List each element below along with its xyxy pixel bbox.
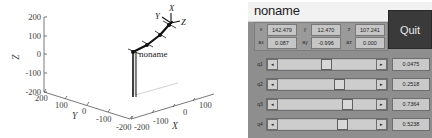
field-label-ay: ay [299,36,311,49]
plot-canvas: 200 100 0 -100 -200 Z 200 100 0 -100 -20… [0,0,216,138]
field-label-z: z [343,23,355,36]
joint-slider-thumb-2[interactable] [334,79,345,90]
frame-y-label: Y [155,11,161,21]
field-value-z[interactable]: 107.241 [355,24,385,36]
joint-slider-thumb-4[interactable] [337,119,348,130]
floor-projection-line [135,83,178,95]
joint-slider-right-arrow-1[interactable]: ▸ [376,59,387,70]
frame-x-label: X [168,3,175,13]
joint-slider-label-4: q4 [254,116,266,132]
screenshot-root: 200 100 0 -100 -200 Z 200 100 0 -100 -20… [0,0,432,138]
field-value-ay[interactable]: -0.996 [311,37,341,49]
joint-slider-3[interactable]: ◂ ▸ [266,98,388,111]
joint-slider-value-2[interactable]: 0.2518 [392,78,430,91]
robot-3d-plot[interactable]: 200 100 0 -100 -200 Z 200 100 0 -100 -20… [0,0,216,138]
joint-slider-2[interactable]: ◂ ▸ [266,78,388,91]
x-tick-3: 100 [199,100,212,110]
joint-slider-value-3[interactable]: 0.7364 [392,98,430,111]
y-axis-label: Y [72,111,79,121]
teach-panel-window[interactable]: noname Quit x 142.479 y 12.470 z 107.241… [248,2,432,138]
z-axis-ticks [44,17,47,92]
joint-slider-row-2: q2 ◂ ▸ 0.2518 [254,76,430,92]
joint-slider-label-1: q1 [254,56,266,72]
y-tick-4: -200 [116,122,132,132]
y-tick-3: -100 [96,114,112,124]
joint-slider-value-1[interactable]: 0.0475 [392,58,430,71]
joint-slider-row-4: q4 ◂ ▸ 0.5238 [254,116,430,132]
joint-slider-left-arrow-3[interactable]: ◂ [267,99,278,110]
pose-readout-group: x 142.479 y 12.470 z 107.241 ax 0.087 ay… [254,22,388,51]
field-value-x[interactable]: 142.479 [267,24,297,36]
z-axis-label: Z [11,54,21,60]
joint-slider-label-3: q3 [254,96,266,112]
joint-slider-thumb-3[interactable] [342,99,353,110]
z-tick-3: -100 [25,68,41,78]
joint-slider-left-arrow-4[interactable]: ◂ [267,119,278,130]
field-label-x: x [255,23,267,36]
joint-slider-track-2[interactable] [278,80,376,89]
y-tick-0: 200 [35,93,48,103]
joint-slider-4[interactable]: ◂ ▸ [266,118,388,131]
joint-slider-label-2: q2 [254,76,266,92]
joint-slider-1[interactable]: ◂ ▸ [266,58,388,71]
pose-orientation-row: ax 0.087 ay -0.996 az 0.000 [255,36,387,49]
window-title: noname [254,3,300,18]
frame-y-arrow [162,17,171,23]
frame-z-label: Z [181,17,186,27]
joint-slider-row-1: q1 ◂ ▸ 0.0475 [254,56,430,72]
joint-slider-right-arrow-2[interactable]: ▸ [376,79,387,90]
joint-slider-right-arrow-3[interactable]: ▸ [376,99,387,110]
field-value-az[interactable]: 0.000 [355,37,385,49]
field-label-ax: ax [255,36,267,49]
robot-name-label: noname [139,49,168,59]
field-value-ax[interactable]: 0.087 [267,37,297,49]
quit-button[interactable]: Quit [388,10,432,49]
z-tick-0: 200 [28,12,41,22]
y-tick-1: 100 [55,100,68,110]
joint-slider-left-arrow-2[interactable]: ◂ [267,79,278,90]
x-axis-label: X [171,121,179,131]
pose-position-row: x 142.479 y 12.470 z 107.241 [255,23,387,36]
x-tick-1: -100 [153,116,169,126]
x-tick-2: 0 [183,107,187,117]
y-tick-2: 0 [82,106,86,116]
joint-slider-left-arrow-1[interactable]: ◂ [267,59,278,70]
field-value-y[interactable]: 12.470 [311,24,341,36]
joint-slider-right-arrow-4[interactable]: ▸ [376,119,387,130]
joint-slider-thumb-1[interactable] [321,59,332,70]
x-tick-0: -200 [134,122,150,132]
field-label-y: y [299,23,311,36]
z-tick-2: 0 [37,49,41,59]
joint-slider-track-4[interactable] [278,120,376,129]
robot-arm-links [133,22,172,52]
joint-slider-value-4[interactable]: 0.5238 [392,118,430,131]
field-label-az: az [343,36,355,49]
joint-slider-track-3[interactable] [278,100,376,109]
z-tick-1: 100 [28,31,41,41]
joint-slider-row-3: q3 ◂ ▸ 0.7364 [254,96,430,112]
